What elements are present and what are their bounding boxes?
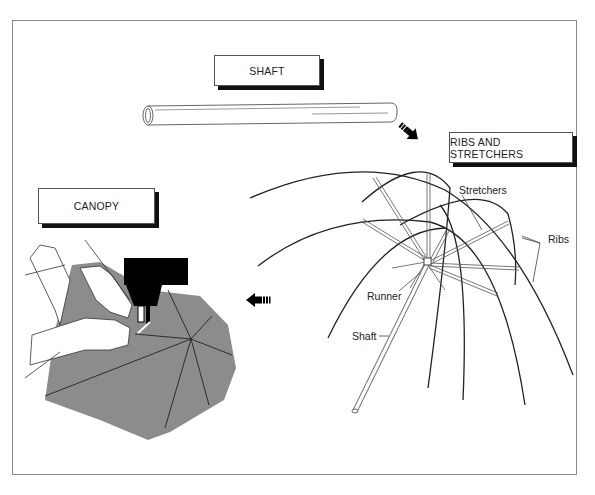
arrow-left-icon bbox=[246, 293, 271, 307]
canopy-title: CANOPY bbox=[74, 200, 120, 212]
ribs-and-stretchers-title-box: RIBS AND STRETCHERS bbox=[449, 132, 573, 163]
runner-callout: Runner bbox=[367, 290, 401, 302]
shaft-title-box: SHAFT bbox=[214, 55, 320, 86]
stretchers-callout: Stretchers bbox=[459, 184, 507, 196]
ribs-frame-illustration bbox=[250, 172, 573, 405]
ribs-and-stretchers-title: RIBS AND STRETCHERS bbox=[450, 136, 572, 160]
ribs-callout: Ribs bbox=[548, 233, 569, 245]
shaft-callout: Shaft bbox=[352, 330, 377, 342]
canopy-title-box: CANOPY bbox=[38, 188, 155, 224]
arrow-down-right-icon bbox=[396, 119, 423, 145]
shaft-title: SHAFT bbox=[249, 65, 284, 77]
shaft-tube-illustration bbox=[143, 103, 397, 125]
canopy-sewing-illustration bbox=[25, 240, 236, 440]
